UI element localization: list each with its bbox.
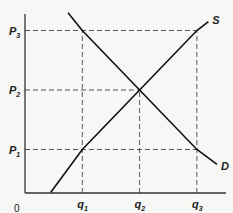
labels: SDP1P2P3q1q2q3 bbox=[9, 14, 229, 212]
supply-curve bbox=[51, 22, 209, 193]
price-label-1: P1 bbox=[9, 144, 20, 158]
guide-lines bbox=[25, 31, 197, 194]
supply-demand-diagram: SDP1P2P3q1q2q3 0 bbox=[0, 0, 233, 213]
curves bbox=[51, 13, 217, 193]
quantity-label-1: q1 bbox=[77, 198, 88, 212]
quantity-label-2: q2 bbox=[135, 198, 146, 212]
price-label-3: P3 bbox=[9, 25, 20, 39]
demand-label: D bbox=[221, 160, 229, 172]
origin-label: 0 bbox=[14, 203, 20, 213]
quantity-label-3: q3 bbox=[192, 198, 203, 212]
price-label-2: P2 bbox=[9, 84, 20, 98]
supply-label: S bbox=[212, 14, 220, 26]
